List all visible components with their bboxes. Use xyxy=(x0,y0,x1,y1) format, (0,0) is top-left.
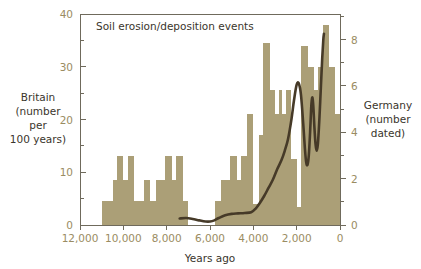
x-tick-label: 2,000 xyxy=(282,232,312,244)
y-tick-label-left: 10 xyxy=(60,166,73,178)
left-axis-title: Britain (number per 100 years) xyxy=(10,91,66,145)
histogram-bar xyxy=(335,114,340,225)
histogram-bar xyxy=(150,201,155,225)
histogram-bar xyxy=(329,67,334,225)
histogram-bar xyxy=(102,201,107,225)
left-axis-title-line-1: (number xyxy=(15,105,61,117)
y-tick-label-left: 0 xyxy=(66,219,73,231)
plot-title: Soil erosion/deposition events xyxy=(96,20,254,32)
chart-svg: 0102030400246812,00010,0008,0006,0004,00… xyxy=(0,0,421,269)
histogram-spike xyxy=(241,156,243,225)
y-tick-label-right: 8 xyxy=(351,34,358,46)
histogram-bar xyxy=(134,201,139,225)
chart-figure: 0102030400246812,00010,0008,0006,0004,00… xyxy=(0,0,421,269)
left-axis-title-line-0: Britain xyxy=(21,91,56,103)
histogram-bar xyxy=(107,201,112,225)
right-axis-title: Germany (number dated) xyxy=(364,99,412,139)
histogram-bar xyxy=(286,90,291,225)
y-tick-label-left: 20 xyxy=(60,114,73,126)
y-tick-label-left: 30 xyxy=(60,61,73,73)
y-tick-label-right: 2 xyxy=(351,173,358,185)
left-axis-title-line-3: 100 years) xyxy=(10,133,66,145)
histogram-spike xyxy=(312,67,314,225)
x-tick-label: 0 xyxy=(337,232,344,244)
histogram-spike xyxy=(176,156,178,225)
right-axis-title-line-1: (number xyxy=(365,113,411,125)
right-axis-title-line-2: dated) xyxy=(371,127,405,139)
x-tick-label: 8,000 xyxy=(152,232,182,244)
histogram-bar xyxy=(221,180,226,225)
histogram-spike xyxy=(165,156,167,225)
x-tick-label: 4,000 xyxy=(238,232,268,244)
y-tick-label-right: 4 xyxy=(351,126,358,138)
y-tick-label-right: 6 xyxy=(351,80,358,92)
histogram-bar xyxy=(270,90,275,225)
histogram-spike xyxy=(117,156,119,225)
histogram-bar xyxy=(183,201,188,225)
right-axis-title-line-0: Germany xyxy=(364,99,412,111)
left-axis-title-line-2: per xyxy=(29,119,47,131)
y-tick-label-left: 40 xyxy=(60,8,73,20)
x-tick-label: 6,000 xyxy=(195,232,225,244)
x-axis-title: Years ago xyxy=(184,252,236,264)
histogram-spike xyxy=(128,156,130,225)
x-tick-label: 10,000 xyxy=(105,232,142,244)
x-tick-label: 12,000 xyxy=(62,232,99,244)
y-tick-label-right: 0 xyxy=(351,219,358,231)
histogram-spike xyxy=(144,180,146,225)
histogram-bar xyxy=(215,201,220,225)
histogram-spike xyxy=(247,114,249,225)
histogram-bar xyxy=(291,159,296,225)
histogram-bar xyxy=(156,180,161,225)
